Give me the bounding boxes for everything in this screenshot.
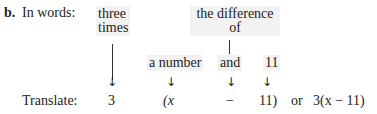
- phrase-difference-line1: the difference: [192, 7, 278, 21]
- translation-final: 3(x − 11): [313, 94, 365, 108]
- translation-three: 3: [108, 94, 115, 108]
- phrase-a-number: a number: [147, 55, 203, 71]
- down-arrow-icon: ↓: [166, 76, 176, 88]
- connector-line: [229, 40, 230, 54]
- translation-open-paren-x: (x: [163, 94, 174, 108]
- phrase-three-times: three times: [96, 6, 130, 36]
- translation-eleven-close: 11): [259, 94, 277, 108]
- down-arrow-icon: ↓: [262, 76, 272, 88]
- phrase-and: and: [218, 55, 242, 71]
- translate-label: Translate:: [22, 94, 77, 108]
- translation-or: or: [291, 94, 303, 108]
- down-arrow-icon: ↓: [226, 76, 236, 88]
- phrase-difference-of: the difference of: [190, 6, 280, 36]
- phrase-of-line2: of: [192, 21, 278, 35]
- down-arrow-icon: ↓: [107, 76, 117, 88]
- phrase-eleven: 11: [263, 55, 280, 71]
- phrase-times-line2: times: [98, 21, 128, 35]
- in-words-label: In words:: [22, 6, 75, 20]
- phrase-three-line1: three: [98, 7, 128, 21]
- translation-minus: −: [226, 94, 234, 108]
- part-label: b.: [4, 6, 15, 20]
